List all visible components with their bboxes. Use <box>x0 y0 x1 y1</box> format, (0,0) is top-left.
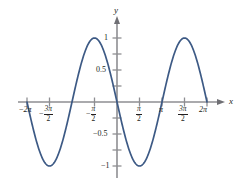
x-tick-label-neg-three-pi-over-two: −3π2 <box>39 105 53 124</box>
x-tick-label-three-pi-over-two: 3π2 <box>178 105 188 124</box>
sine-graph-figure: −2π −3π2 −π2 π2 π 3π2 2π 1 0.5 −0.5 −1 y… <box>0 0 246 188</box>
y-axis <box>114 16 120 178</box>
y-tick-label-neg-half: −0.5 <box>93 130 108 138</box>
y-tick-label-one: 1 <box>104 34 108 42</box>
x-tick-label-pi-over-two: π2 <box>136 105 142 124</box>
y-tick-label-neg-one: −1 <box>101 162 110 170</box>
y-tick-label-half: 0.5 <box>96 66 106 74</box>
x-tick-label-pi: π <box>159 106 163 114</box>
plot-canvas <box>0 0 246 188</box>
y-axis-label: y <box>114 6 118 15</box>
x-tick-label-two-pi: 2π <box>199 106 207 114</box>
x-tick-label-neg-two-pi: −2π <box>19 106 32 114</box>
x-axis-label: x <box>229 97 233 106</box>
x-tick-label-neg-pi-over-two: −π2 <box>86 105 96 124</box>
